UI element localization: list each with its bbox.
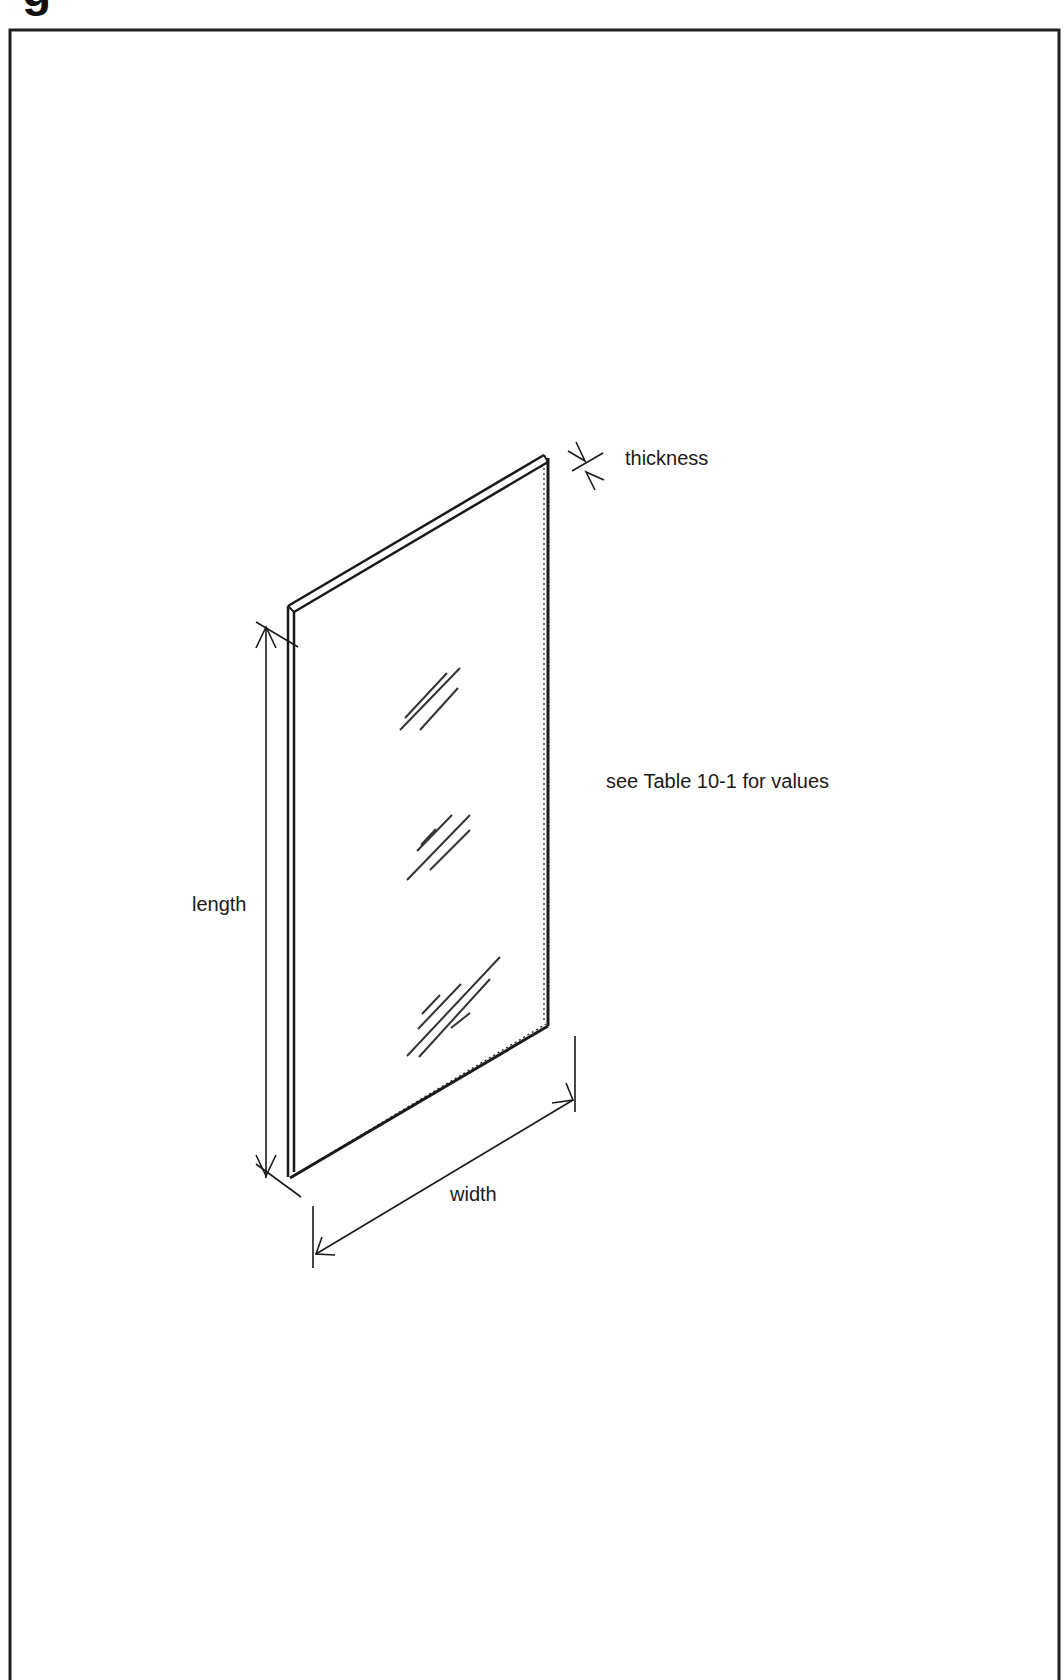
reflection-marks-top [400,668,460,730]
width-dimension [313,1036,575,1268]
reflection-marks-bottom [407,957,500,1057]
thickness-dimension [568,442,604,490]
table-reference-note: see Table 10-1 for values [606,770,829,793]
reflection-marks-middle [407,815,470,880]
figure-frame [10,30,1059,1680]
thickness-label: thickness [625,447,708,470]
glass-panel-diagram [0,0,1064,1680]
length-label: length [192,893,247,916]
width-label: width [450,1183,497,1206]
glass-panel [288,455,548,1178]
